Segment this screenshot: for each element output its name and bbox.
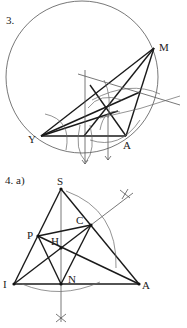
arc-5 <box>100 96 180 118</box>
point-P-label: P <box>27 229 33 241</box>
figure-4: 4. a) S I A N P C <box>3 174 150 322</box>
point-A-label: A <box>142 279 150 291</box>
line-Y-to-AM <box>41 92 140 136</box>
cross-mark-upper <box>120 189 130 199</box>
point-I <box>12 282 15 285</box>
point-S-label: S <box>57 175 63 187</box>
point-A-label: A <box>123 139 131 151</box>
figure-3-number: 3. <box>6 14 15 26</box>
point-C-label: C <box>76 214 83 226</box>
point-I-label: I <box>3 278 7 290</box>
arc-S-centered <box>66 191 116 268</box>
point-A <box>137 282 140 285</box>
point-N <box>59 282 62 285</box>
side-SA <box>61 189 139 284</box>
altitude-IC <box>14 225 91 284</box>
point-Y-label: Y <box>28 133 36 145</box>
figure-3: 3. M Y A <box>6 1 180 164</box>
altitude-IC-extension <box>91 193 133 225</box>
point-H-label: H <box>51 235 59 247</box>
geometry-diagram: 3. M Y A 4. a) <box>0 0 187 328</box>
point-C <box>89 223 92 226</box>
point-N-label: N <box>68 273 76 285</box>
point-S <box>59 187 62 190</box>
side-CN <box>61 225 91 284</box>
arc-6 <box>90 120 140 143</box>
figure-4-number: 4. a) <box>5 174 25 187</box>
point-M-label: M <box>159 41 169 53</box>
circumcircle <box>6 1 158 153</box>
point-P <box>36 234 39 237</box>
point-H <box>59 246 62 249</box>
